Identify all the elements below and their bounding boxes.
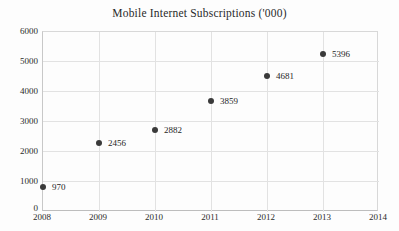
x-tick-2011: 2011 <box>188 212 232 222</box>
data-point-2010 <box>152 127 158 133</box>
data-label-2010: 2882 <box>164 125 182 135</box>
x-tick-2012: 2012 <box>244 212 288 222</box>
y-axis: 6000 5000 4000 3000 2000 1000 0 <box>0 0 38 231</box>
gridline-vertical-2010 <box>155 32 156 212</box>
x-tick-2013: 2013 <box>300 212 344 222</box>
y-tick-3000: 3000 <box>4 116 38 126</box>
x-tick-2008: 2008 <box>20 212 64 222</box>
y-tick-2000: 2000 <box>4 146 38 156</box>
data-label-2009: 2456 <box>108 138 126 148</box>
data-point-2008 <box>40 184 46 190</box>
data-label-2013: 5396 <box>332 49 350 59</box>
chart-screenshot: Mobile Internet Subscriptions ('000) 970… <box>0 0 399 231</box>
data-label-2008: 970 <box>52 182 66 192</box>
x-tick-2014: 2014 <box>356 212 399 222</box>
gridline-vertical-2011 <box>211 32 212 212</box>
data-label-2012: 4681 <box>276 71 294 81</box>
y-tick-5000: 5000 <box>4 56 38 66</box>
y-tick-4000: 4000 <box>4 86 38 96</box>
data-point-2009 <box>96 140 102 146</box>
plot-area: 970 2456 2882 3859 4681 5396 <box>42 31 378 211</box>
gridline-vertical-2013 <box>323 32 324 212</box>
y-tick-1000: 1000 <box>4 176 38 186</box>
x-tick-2010: 2010 <box>132 212 176 222</box>
x-tick-2009: 2009 <box>76 212 120 222</box>
chart-title: Mobile Internet Subscriptions ('000) <box>0 7 399 19</box>
data-point-2012 <box>264 73 270 79</box>
data-point-2013 <box>320 51 326 57</box>
data-point-2011 <box>208 98 214 104</box>
gridline-vertical-2012 <box>267 32 268 212</box>
data-label-2011: 3859 <box>220 96 238 106</box>
y-tick-6000: 6000 <box>4 26 38 36</box>
gridline-vertical-2009 <box>99 32 100 212</box>
